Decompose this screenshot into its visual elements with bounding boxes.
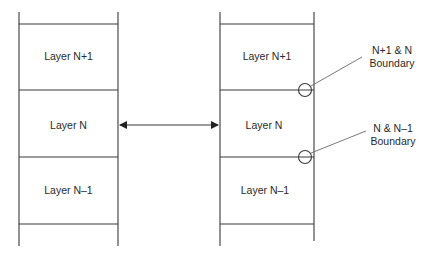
callout-label-line2: Boundary	[370, 57, 416, 69]
callout-n1-n-boundary: N+1 & N Boundary	[299, 44, 416, 97]
callout-n-n-1-boundary: N & N–1 Boundary	[299, 122, 417, 164]
callout-label-line1: N+1 & N	[372, 44, 412, 56]
callout-leader-line	[311, 131, 366, 153]
right-layer-n-plus-1-label: Layer N+1	[243, 50, 292, 62]
callout-label-line1: N & N–1	[373, 122, 413, 134]
left-layer-n-minus-1-label: Layer N–1	[44, 184, 93, 196]
right-layer-n-label: Layer N	[246, 119, 283, 131]
right-layer-n-minus-1-label: Layer N–1	[241, 184, 290, 196]
layer-diagram: Layer N+1 Layer N Layer N–1 Layer N+1 La…	[0, 0, 427, 258]
left-layer-n-label: Layer N	[50, 119, 87, 131]
callout-leader-line	[311, 57, 362, 86]
left-layer-n-plus-1-label: Layer N+1	[44, 50, 93, 62]
callout-label-line2: Boundary	[371, 135, 417, 147]
right-layer-stack: Layer N+1 Layer N Layer N–1	[220, 12, 314, 246]
left-layer-stack: Layer N+1 Layer N Layer N–1	[19, 12, 118, 246]
